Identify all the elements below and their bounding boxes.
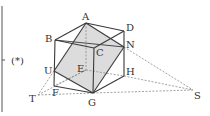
label-E: E — [77, 63, 84, 74]
label-H: H — [126, 66, 135, 77]
label-F: F — [52, 87, 59, 98]
label-N: N — [126, 39, 135, 50]
label-S: S — [194, 90, 201, 101]
label-D: D — [126, 22, 134, 33]
label-G: G — [88, 97, 96, 108]
label-C: C — [96, 47, 104, 58]
label-T: T — [29, 93, 36, 104]
marker-label: (*) — [11, 55, 24, 66]
cube-section-diagram: (*) A B C D N E U H F G T S — [0, 0, 210, 116]
label-U: U — [44, 65, 52, 76]
label-B: B — [45, 33, 52, 44]
shaded-section — [54, 23, 124, 93]
label-A: A — [81, 11, 90, 22]
